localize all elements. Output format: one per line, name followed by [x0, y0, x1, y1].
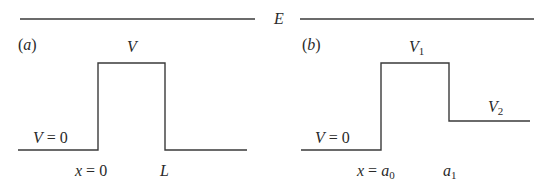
panel-a-left-edge-label: x = 0: [74, 162, 107, 179]
panel-b-tag: (b): [302, 36, 321, 54]
panel-a: (a) V V = 0 x = 0 L: [18, 36, 247, 179]
potential-barrier-diagram: E (a) V V = 0 x = 0 L (b) V1 V2 V = 0 x …: [0, 0, 548, 189]
energy-label: E: [273, 10, 284, 27]
panel-a-outside-label: V = 0: [33, 129, 68, 146]
panel-b: (b) V1 V2 V = 0 x = a0 a1: [301, 36, 530, 181]
panel-b-outside-label: V = 0: [315, 129, 350, 146]
panel-a-right-edge-label: L: [159, 162, 169, 179]
panel-a-tag: (a): [18, 36, 37, 54]
panel-a-barrier-label: V: [127, 38, 139, 55]
panel-b-step-label: V2: [488, 98, 503, 117]
panel-b-barrier-label: V1: [409, 38, 424, 57]
panel-b-left-edge-label: x = a0: [356, 162, 395, 181]
panel-b-right-edge-label: a1: [443, 162, 457, 181]
